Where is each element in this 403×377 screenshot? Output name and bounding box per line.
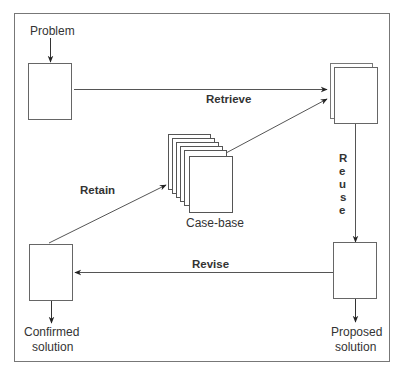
case-base-front-sheet: [190, 157, 233, 213]
reuse-letter-u: u: [339, 178, 346, 190]
problem-label: Problem: [30, 24, 75, 38]
revise-label: Revise: [192, 258, 229, 270]
reuse-letter-e2: e: [339, 204, 345, 216]
retrieved-sheet-front: [335, 68, 378, 124]
confirmed-box: [30, 245, 73, 301]
retrieved-cases-node: [331, 64, 378, 124]
proposed-solution-node: Proposed solution: [331, 243, 382, 355]
confirmed-label-line2: solution: [32, 340, 73, 354]
case-base-to-retrieved-arrow: [226, 99, 327, 153]
retrieve-edge: Retrieve: [74, 90, 327, 106]
reuse-letter-r: R: [339, 152, 348, 164]
case-base-label: Case-base: [186, 216, 244, 230]
proposed-label-line2: solution: [335, 340, 376, 354]
proposed-label-line1: Proposed: [331, 325, 382, 339]
confirmed-solution-node: Confirmed solution: [24, 245, 79, 355]
problem-box: [29, 64, 72, 120]
confirmed-label-line1: Confirmed: [24, 325, 79, 339]
cbr-cycle-diagram: Problem Retrieve Case-base R e u s e Pro…: [0, 0, 403, 377]
retrieve-label: Retrieve: [206, 93, 251, 105]
reuse-letter-s: s: [340, 191, 346, 203]
reuse-edge: R e u s e: [339, 124, 356, 242]
reuse-letter-e: e: [339, 165, 345, 177]
revise-edge: Revise: [75, 258, 333, 273]
problem-node: Problem: [29, 24, 75, 120]
retain-label: Retain: [80, 184, 115, 196]
proposed-box: [334, 243, 377, 299]
retain-edge: Retain: [49, 184, 166, 243]
